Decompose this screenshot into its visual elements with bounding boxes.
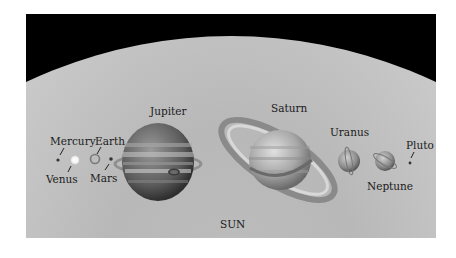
- label-neptune: Neptune: [367, 181, 413, 192]
- planet-mercury: [56, 148, 64, 162]
- label-jupiter: Jupiter: [150, 106, 187, 117]
- planet-earth: [91, 147, 102, 164]
- label-pluto: Pluto: [406, 140, 434, 151]
- planet-mars: [105, 157, 113, 170]
- planet-uranus: [338, 147, 360, 176]
- planet-neptune: [372, 151, 399, 171]
- label-uranus: Uranus: [330, 127, 369, 138]
- planet-pluto: [409, 152, 414, 164]
- planet-saturn: [210, 105, 346, 215]
- label-sun: SUN: [220, 219, 245, 230]
- planet-venus: [68, 156, 80, 173]
- label-venus: Venus: [46, 174, 78, 185]
- label-mars: Mars: [90, 173, 117, 184]
- label-mercury: Mercury: [50, 136, 96, 147]
- label-earth: Earth: [95, 136, 125, 147]
- planet-jupiter: [115, 123, 201, 201]
- label-saturn: Saturn: [271, 103, 307, 114]
